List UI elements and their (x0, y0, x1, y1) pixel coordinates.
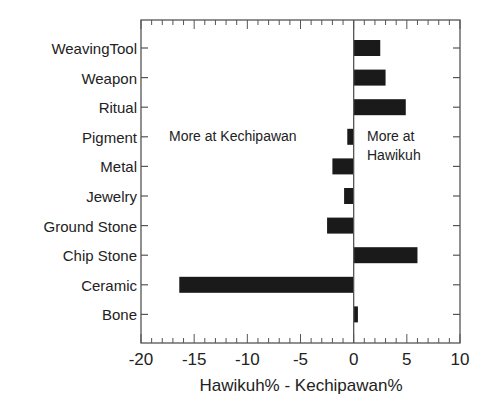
bar-chart: WeavingToolWeaponRitualPigmentMetalJewel… (0, 0, 492, 416)
annotation-more-at-hawikuh-line1: More at (367, 128, 415, 144)
bar-ground-stone (327, 218, 354, 234)
y-label-ground-stone: Ground Stone (44, 218, 137, 235)
x-axis-label: Hawikuh% - Kechipawan% (199, 376, 402, 395)
y-label-metal: Metal (100, 158, 137, 175)
x-tick-label: -20 (129, 350, 154, 369)
y-label-chip-stone: Chip Stone (63, 247, 137, 264)
bar-pigment (347, 129, 353, 145)
x-tick-label: 10 (451, 350, 470, 369)
y-label-bone: Bone (102, 306, 137, 323)
axes-group (141, 20, 460, 343)
x-tick-label: 0 (349, 350, 358, 369)
bar-weavingtool (354, 40, 381, 56)
x-axis-tick-labels: -20-15-10-50510 (129, 350, 470, 369)
y-axis-labels: WeavingToolWeaponRitualPigmentMetalJewel… (44, 40, 138, 323)
bars-group (179, 40, 417, 322)
bar-ceramic (179, 277, 353, 293)
annotation-more-at-kechipawan: More at Kechipawan (169, 128, 297, 144)
y-label-jewelry: Jewelry (86, 188, 137, 205)
y-label-ceramic: Ceramic (81, 277, 137, 294)
bar-ritual (354, 99, 406, 115)
y-label-ritual: Ritual (99, 99, 137, 116)
x-tick-label: -10 (235, 350, 260, 369)
bar-metal (332, 158, 353, 174)
bar-weapon (354, 70, 386, 86)
y-label-weavingtool: WeavingTool (51, 40, 137, 57)
y-label-pigment: Pigment (82, 129, 138, 146)
x-tick-label: -5 (293, 350, 308, 369)
x-tick-label: -15 (182, 350, 207, 369)
annotation-more-at-hawikuh-line2: Hawikuh (367, 147, 421, 163)
bar-chip-stone (354, 247, 418, 263)
plot-frame (141, 20, 460, 343)
bar-jewelry (344, 188, 354, 204)
y-label-weapon: Weapon (81, 70, 137, 87)
x-tick-label: 5 (402, 350, 411, 369)
